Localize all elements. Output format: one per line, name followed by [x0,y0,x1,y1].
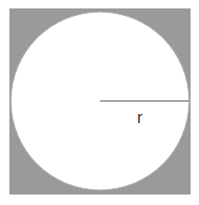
radius-label: r [137,108,143,127]
figure-canvas: r [0,0,199,205]
geometry-figure: r [0,0,199,205]
